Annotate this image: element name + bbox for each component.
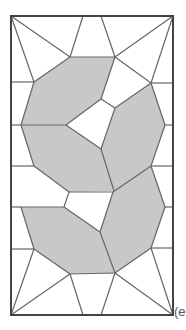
shaded-regions [21,57,165,274]
edge-line [101,99,115,108]
edge-line [70,274,83,315]
lower-left-octagon [21,207,115,274]
figure-label: (e [174,304,186,319]
edge-line [70,16,83,57]
edge-line [11,249,34,315]
upper-right-octagon [101,83,165,191]
edge-line [11,16,34,82]
tessellation-figure [0,0,186,330]
middle-left-octagon [21,125,114,192]
edge-line [64,192,69,207]
edge-line [11,16,70,57]
edge-line [115,16,173,57]
edge-line [115,57,151,83]
edge-line [101,16,115,57]
edge-line [151,16,173,83]
edge-line [151,248,173,315]
edge-line [11,274,70,315]
edge-line [115,273,173,315]
edge-line [101,273,115,315]
upper-left-octagon [21,57,115,125]
